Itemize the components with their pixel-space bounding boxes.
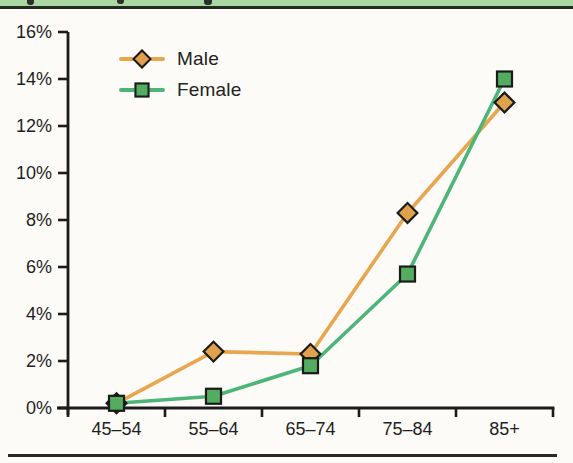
legend-label-male: Male [177, 48, 219, 70]
y-tick-label: 2% [26, 351, 52, 371]
y-tick-label: 6% [26, 257, 52, 277]
x-tick-label: 85+ [489, 419, 520, 439]
female-square-icon [135, 83, 150, 98]
legend-label-female: Female [177, 79, 242, 101]
chart-legend: Male Female [119, 48, 242, 101]
female-square-marker [497, 72, 512, 87]
y-tick-label: 14% [16, 69, 52, 89]
legend-item-male: Male [119, 48, 242, 70]
y-tick-label: 12% [16, 116, 52, 136]
male-diamond-icon [132, 49, 152, 69]
male-line-sample [119, 57, 165, 61]
legend-item-female: Female [119, 79, 242, 101]
x-tick-label: 45–54 [91, 419, 141, 439]
scanned-figure-page: 0%2%4%6%8%10%12%14%16%45–5455–6465–7475–… [0, 0, 573, 463]
x-tick-label: 75–84 [382, 419, 432, 439]
x-tick-label: 55–64 [188, 419, 238, 439]
female-square-marker [206, 389, 221, 404]
y-tick-label: 0% [26, 398, 52, 418]
y-tick-label: 4% [26, 304, 52, 324]
female-line-sample [119, 88, 165, 92]
female-square-marker [303, 358, 318, 373]
bottom-rule [8, 454, 557, 457]
x-tick-label: 65–74 [285, 419, 335, 439]
female-square-marker [400, 267, 415, 282]
y-tick-label: 10% [16, 163, 52, 183]
y-tick-label: 16% [16, 22, 52, 42]
female-square-marker [109, 396, 124, 411]
male-diamond-marker [204, 342, 224, 362]
chart-canvas: 0%2%4%6%8%10%12%14%16%45–5455–6465–7475–… [0, 0, 573, 463]
y-tick-label: 8% [26, 210, 52, 230]
